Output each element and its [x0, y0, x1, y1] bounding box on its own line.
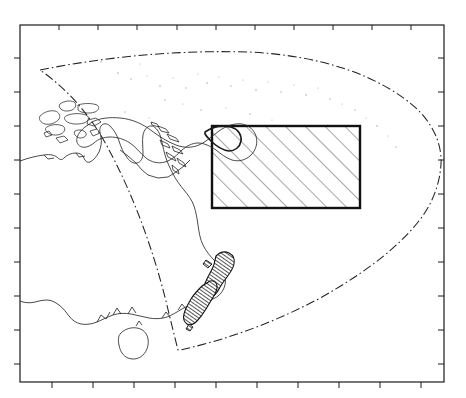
axis-ticks-bottom	[52, 382, 421, 388]
axis-ticks-left	[14, 58, 20, 364]
map-figure	[0, 0, 466, 398]
study-area-hatch-fill	[212, 126, 360, 208]
map-canvas	[0, 0, 466, 398]
hatched-study-area[interactable]	[212, 126, 360, 208]
